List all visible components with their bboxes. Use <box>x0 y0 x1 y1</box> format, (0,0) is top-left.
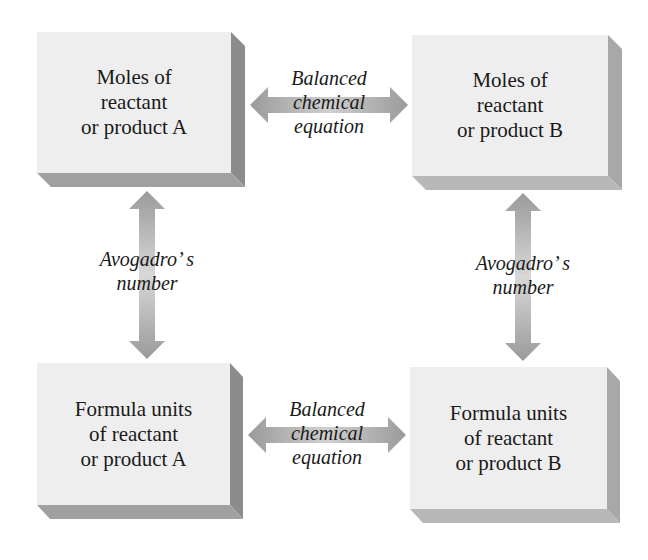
box-line: reactant <box>101 90 167 115</box>
box-face: Moles of reactant or product A <box>37 32 231 173</box>
box-face: Formula units of reactant or product B <box>410 367 607 509</box>
box-moles-reactant-a: Moles of reactant or product A <box>37 32 247 188</box>
balanced-equation-label-bottom: Balanced chemical equation <box>256 397 398 469</box>
label-line: Balanced <box>256 397 398 421</box>
label-line: equation <box>258 114 400 138</box>
label-line: number <box>448 275 598 299</box>
box-formula-units-a: Formula units of reactant or product A <box>37 363 245 520</box>
label-line: chemical <box>258 90 400 114</box>
box-line: Moles of <box>96 65 171 90</box>
label-line: Avogadro’ s <box>72 247 222 271</box>
box-line: Moles of <box>472 68 547 93</box>
box-line: reactant <box>477 93 543 118</box>
label-line: equation <box>256 445 398 469</box>
box-face: Formula units of reactant or product A <box>37 363 230 505</box>
box-moles-reactant-b: Moles of reactant or product B <box>412 35 624 191</box>
label-line: Avogadro’ s <box>448 251 598 275</box>
box-line: or product A <box>80 447 186 472</box>
box-face: Moles of reactant or product B <box>412 35 608 176</box>
box-line: or product A <box>81 115 187 140</box>
label-line: number <box>72 271 222 295</box>
box-line: or product B <box>455 451 561 476</box>
box-formula-units-b: Formula units of reactant or product B <box>410 367 622 524</box>
avogadro-number-label-left: Avogadro’ s number <box>72 247 222 295</box>
box-line: of reactant <box>464 426 553 451</box>
balanced-equation-label-top: Balanced chemical equation <box>258 66 400 138</box>
label-line: Balanced <box>258 66 400 90</box>
box-line: or product B <box>457 118 563 143</box>
avogadro-number-label-right: Avogadro’ s number <box>448 251 598 299</box>
label-line: chemical <box>256 421 398 445</box>
box-line: Formula units <box>450 401 567 426</box>
box-line: of reactant <box>89 422 178 447</box>
box-line: Formula units <box>75 397 192 422</box>
